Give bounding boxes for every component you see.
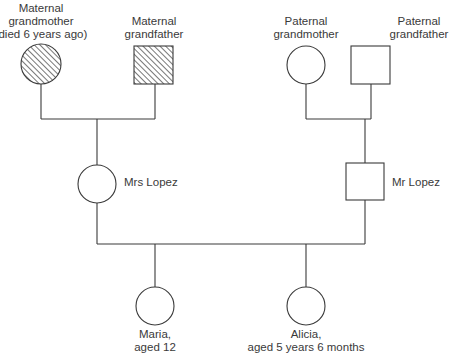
paternal-grandmother-symbol <box>287 46 325 84</box>
label-line: Maria, <box>115 328 195 341</box>
maternal-grandfather-label: Maternal grandfather <box>114 15 194 41</box>
label-line: grandmother <box>266 28 346 41</box>
alicia-label: Alicia, aged 5 years 6 months <box>241 328 371 354</box>
mr-lopez-label: Mr Lopez <box>392 176 440 189</box>
label-line: grandmother <box>0 15 91 28</box>
label-line: Maternal <box>0 2 91 15</box>
alicia-symbol <box>287 287 325 325</box>
paternal-grandfather-label: Paternal grandfather <box>379 15 456 41</box>
paternal-grandfather-symbol <box>351 46 390 84</box>
label-line: (died 6 years ago) <box>0 28 91 41</box>
maternal-grandmother-symbol <box>21 44 61 84</box>
label-line: Paternal <box>266 15 346 28</box>
maternal-grandfather-symbol <box>134 46 173 84</box>
label-line: Mrs Lopez <box>124 176 178 189</box>
mr-lopez-symbol <box>346 163 384 200</box>
maternal-grandmother-label: Maternal grandmother (died 6 years ago) <box>0 2 91 41</box>
label-line: Maternal <box>114 15 194 28</box>
mrs-lopez-symbol <box>78 165 116 203</box>
label-line: Alicia, <box>241 328 371 341</box>
mrs-lopez-label: Mrs Lopez <box>124 176 178 189</box>
maria-label: Maria, aged 12 <box>115 328 195 354</box>
maria-symbol <box>136 287 174 325</box>
label-line: aged 12 <box>115 341 195 354</box>
label-line: grandfather <box>114 28 194 41</box>
genogram-diagram <box>0 0 456 356</box>
paternal-grandmother-label: Paternal grandmother <box>266 15 346 41</box>
label-line: grandfather <box>379 28 456 41</box>
label-line: Mr Lopez <box>392 176 440 189</box>
label-line: aged 5 years 6 months <box>241 341 371 354</box>
label-line: Paternal <box>379 15 456 28</box>
